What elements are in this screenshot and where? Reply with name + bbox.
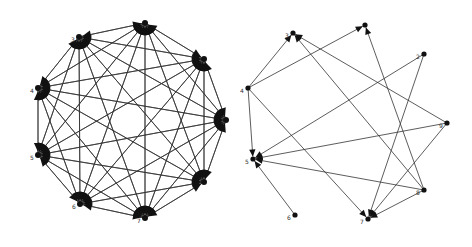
graph-node — [421, 187, 426, 192]
complete-digraph-panel: 34567 — [0, 0, 236, 247]
node-label: 7 — [137, 217, 141, 224]
edge — [255, 54, 424, 158]
edge — [366, 27, 424, 190]
graph-node — [35, 152, 41, 158]
edge — [41, 155, 204, 182]
graph-node — [292, 212, 297, 217]
edge — [256, 159, 424, 190]
node-label: 8 — [416, 189, 420, 196]
node-label: 5 — [245, 158, 249, 165]
graph-node — [245, 85, 250, 90]
edge — [41, 89, 204, 182]
edge — [370, 123, 447, 217]
edge — [38, 25, 143, 155]
node-label: 3 — [285, 32, 289, 39]
graph-node — [290, 30, 295, 35]
node-label: 4 — [240, 87, 244, 94]
graph-node — [201, 56, 207, 62]
sparse-digraph: 32987654 — [236, 0, 472, 247]
graph-node — [250, 156, 255, 161]
edge — [81, 39, 204, 182]
node-label: 5 — [30, 154, 34, 161]
arrowhead-icon — [355, 26, 363, 32]
edge — [295, 34, 447, 123]
edge — [82, 59, 204, 202]
node-label: 9 — [439, 122, 443, 129]
graph-node — [362, 22, 367, 27]
graph-node — [142, 215, 148, 221]
complete-digraph: 34567 — [0, 0, 236, 247]
node-label: 6 — [287, 214, 291, 221]
graph-node — [421, 51, 426, 56]
edge — [248, 35, 291, 88]
graph-node — [76, 34, 82, 40]
node-label: 2 — [416, 53, 420, 60]
edge — [256, 123, 447, 159]
edge — [295, 35, 424, 190]
graph-node — [223, 117, 229, 123]
graph-node — [77, 201, 83, 207]
arrowhead-icon — [204, 62, 212, 72]
arrowhead-icon — [249, 149, 255, 156]
edge — [248, 26, 363, 88]
arrowheads — [34, 22, 226, 220]
graph-node — [142, 20, 148, 26]
node-label: 3 — [71, 36, 75, 43]
nodes: 34567 — [30, 20, 229, 224]
sparse-digraph-panel: 32987654 — [236, 0, 472, 247]
graph-node — [201, 179, 207, 185]
edge — [248, 88, 253, 156]
nodes: 32987654 — [240, 22, 450, 225]
edge — [146, 26, 204, 182]
edge — [80, 40, 145, 218]
node-label: 7 — [360, 218, 364, 225]
edge — [255, 161, 295, 215]
edge — [40, 90, 145, 218]
edge — [83, 120, 226, 203]
graph-node — [35, 85, 41, 91]
graph-node — [365, 216, 370, 221]
arrowhead-icon — [365, 27, 371, 35]
edge — [41, 157, 145, 218]
edge — [146, 59, 204, 215]
node-label: 4 — [30, 87, 34, 94]
edge — [248, 88, 366, 217]
graph-node — [444, 120, 449, 125]
node-label: 6 — [72, 203, 76, 210]
